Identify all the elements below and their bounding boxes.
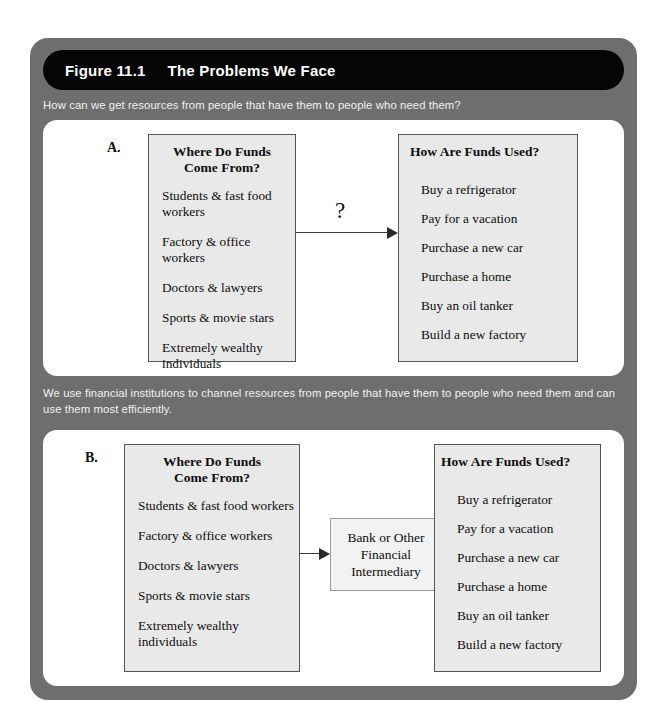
list-item: Buy a refrigerator xyxy=(457,492,600,508)
panel-a-sources-heading-line1: Where Do Funds xyxy=(149,144,295,160)
arrow-head xyxy=(319,548,330,560)
list-item: Factory & office workers xyxy=(138,528,299,544)
panel-a-uses-list: Buy a refrigerator Pay for a vacation Pu… xyxy=(399,182,577,343)
panel-b-intermediary-text: Bank or Other Financial Intermediary xyxy=(347,529,424,580)
panel-b-letter: B. xyxy=(85,450,98,466)
list-item: Sports & movie stars xyxy=(138,588,299,604)
panel-a-uses-box: How Are Funds Used? Buy a refrigerator P… xyxy=(398,134,578,362)
list-item: Students & fast food workers xyxy=(162,188,295,220)
list-item: Doctors & lawyers xyxy=(162,280,295,296)
list-item: Purchase a home xyxy=(421,269,577,285)
panel-b-sources-heading: Where Do Funds Come From? xyxy=(125,454,299,486)
panel-a-sources-heading-line2: Come From? xyxy=(149,160,295,176)
panel-b-uses-heading: How Are Funds Used? xyxy=(435,454,600,470)
panel-a-sources-box: Where Do Funds Come From? Students & fas… xyxy=(148,134,296,362)
list-item: Pay for a vacation xyxy=(457,521,600,537)
panel-b-sources-list: Students & fast food workers Factory & o… xyxy=(125,498,299,650)
list-item: Buy an oil tanker xyxy=(457,608,600,624)
figure-title: The Problems We Face xyxy=(168,62,336,79)
figure-frame: Figure 11.1 The Problems We Face How can… xyxy=(30,38,637,700)
list-item: Students & fast food workers xyxy=(138,498,299,514)
panel-a: A. Where Do Funds Come From? Students & … xyxy=(43,120,624,376)
panel-a-flow-arrow-icon xyxy=(296,227,398,239)
list-item: Extremely wealthy individuals xyxy=(138,618,299,650)
caption-panel-a: How can we get resources from people tha… xyxy=(43,98,623,114)
arrow-line xyxy=(296,232,388,233)
panel-b: B. Where Do Funds Come From? Students & … xyxy=(43,430,624,686)
panel-b-uses-list: Buy a refrigerator Pay for a vacation Pu… xyxy=(435,492,600,653)
list-item: Doctors & lawyers xyxy=(138,558,299,574)
arrow-line xyxy=(300,553,320,554)
panel-a-sources-heading: Where Do Funds Come From? xyxy=(149,144,295,176)
panel-b-sources-heading-line2: Come From? xyxy=(125,470,299,486)
list-item: Build a new factory xyxy=(421,327,577,343)
panel-b-uses-box: How Are Funds Used? Buy a refrigerator P… xyxy=(434,444,601,672)
list-item: Purchase a new car xyxy=(457,550,600,566)
figure-number: Figure 11.1 xyxy=(65,62,146,79)
panel-a-question-mark: ? xyxy=(335,198,345,224)
panel-b-sources-box: Where Do Funds Come From? Students & fas… xyxy=(124,444,300,672)
figure-title-bar: Figure 11.1 The Problems We Face xyxy=(43,50,624,90)
list-item: Buy a refrigerator xyxy=(421,182,577,198)
arrow-head xyxy=(387,227,398,239)
panel-a-uses-heading: How Are Funds Used? xyxy=(399,144,577,160)
list-item: Sports & movie stars xyxy=(162,310,295,326)
panel-b-intermediary-box: Bank or Other Financial Intermediary xyxy=(330,518,442,591)
panel-b-arrow-to-intermediary-icon xyxy=(300,548,330,560)
panel-b-sources-heading-line1: Where Do Funds xyxy=(125,454,299,470)
panel-a-sources-list: Students & fast food workers Factory & o… xyxy=(149,188,295,372)
list-item: Purchase a home xyxy=(457,579,600,595)
list-item: Pay for a vacation xyxy=(421,211,577,227)
list-item: Factory & office workers xyxy=(162,234,295,266)
list-item: Purchase a new car xyxy=(421,240,577,256)
list-item: Build a new factory xyxy=(457,637,600,653)
caption-panel-b: We use financial institutions to channel… xyxy=(43,386,623,417)
list-item: Extremely wealthy individuals xyxy=(162,340,295,372)
panel-a-letter: A. xyxy=(107,140,121,156)
list-item: Buy an oil tanker xyxy=(421,298,577,314)
